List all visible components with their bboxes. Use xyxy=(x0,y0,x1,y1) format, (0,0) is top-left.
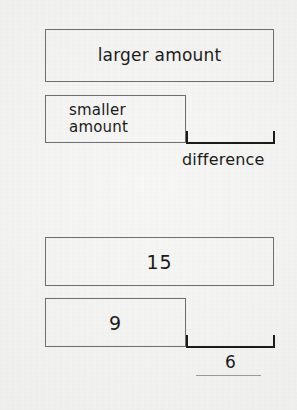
bar-smaller-amount-label: smaller amount xyxy=(69,102,128,136)
bar-value-nine-label: 9 xyxy=(109,312,122,334)
difference-label: difference xyxy=(182,150,265,169)
difference-bracket xyxy=(186,132,275,144)
bar-value-fifteen-label: 15 xyxy=(146,251,172,273)
bar-larger-amount: larger amount xyxy=(45,29,274,82)
bar-value-nine: 9 xyxy=(45,298,186,347)
bar-value-fifteen: 15 xyxy=(45,237,274,286)
bar-larger-amount-label: larger amount xyxy=(98,46,222,65)
bar-smaller-amount: smaller amount xyxy=(45,95,186,143)
difference-value-bracket xyxy=(186,336,275,348)
difference-value-label: 6 xyxy=(186,352,275,372)
diagram-canvas: larger amount smaller amount difference … xyxy=(0,0,297,410)
difference-value-underline xyxy=(196,375,261,376)
